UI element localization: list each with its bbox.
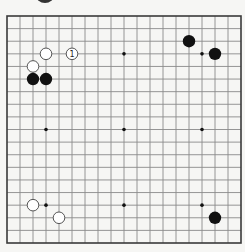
hoshi-point <box>122 203 126 207</box>
black-stone <box>209 212 221 224</box>
hoshi-point <box>44 203 48 207</box>
hoshi-point <box>122 128 126 132</box>
hoshi-point <box>44 128 48 132</box>
white-stone <box>53 212 65 224</box>
go-board: 1 <box>0 0 245 252</box>
black-stone <box>27 73 39 85</box>
black-stone <box>40 73 52 85</box>
white-stone <box>27 199 39 211</box>
black-stone <box>183 35 195 47</box>
white-stone <box>40 48 52 60</box>
go-board-grid: 1 <box>0 0 245 252</box>
hoshi-point <box>200 128 204 132</box>
black-stone <box>209 48 221 60</box>
hoshi-point <box>200 52 204 56</box>
hoshi-point <box>122 52 126 56</box>
move-number-label: 1 <box>69 50 74 59</box>
white-stone <box>27 61 39 73</box>
hoshi-point <box>200 203 204 207</box>
